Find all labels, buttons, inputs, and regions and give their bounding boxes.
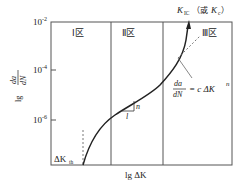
region-label-3: Ⅲ区 (202, 28, 217, 38)
svg-text:（或: （或 (192, 5, 208, 15)
crack-growth-diagram: 10-2 10-4 10-6 lg da dN Ⅰ区 Ⅱ区 Ⅲ区 n l K I… (0, 0, 242, 181)
svg-text:K: K (176, 5, 184, 15)
threshold-label: ΔK th (54, 154, 74, 165)
svg-text:= c ΔK: = c ΔK (189, 84, 216, 94)
y-tick-label-1e-2: 10-2 (33, 16, 47, 27)
slope-rise-label: n (136, 102, 140, 111)
svg-text:dN: dN (19, 75, 28, 85)
y-tick-label-1e-4: 10-4 (33, 64, 47, 75)
paris-extension-dashed-line (178, 36, 200, 58)
paris-law-equation: da dN = c ΔK n (173, 79, 230, 99)
svg-text:da: da (174, 79, 182, 88)
arrow-head-icon (186, 20, 191, 29)
svg-text:）: ） (221, 6, 229, 15)
x-axis-label: lg ΔK (125, 170, 147, 180)
svg-text:th: th (69, 159, 74, 165)
svg-text:ΔK: ΔK (54, 154, 67, 164)
paris-leader-line (178, 58, 192, 78)
region-label-1: Ⅰ区 (72, 28, 84, 38)
svg-text:lg: lg (14, 96, 23, 102)
svg-text:K: K (210, 5, 218, 15)
svg-text:IC: IC (184, 10, 190, 16)
kic-annotation: K IC （或 K c ） (176, 5, 229, 16)
svg-text:dN: dN (173, 90, 183, 99)
slope-run-label: l (126, 112, 129, 121)
region-label-2: Ⅱ区 (122, 28, 135, 38)
svg-text:n: n (226, 80, 230, 88)
y-tick-label-1e-6: 10-6 (33, 114, 47, 125)
svg-text:da: da (9, 76, 18, 84)
y-axis-label: lg da dN (9, 70, 28, 102)
